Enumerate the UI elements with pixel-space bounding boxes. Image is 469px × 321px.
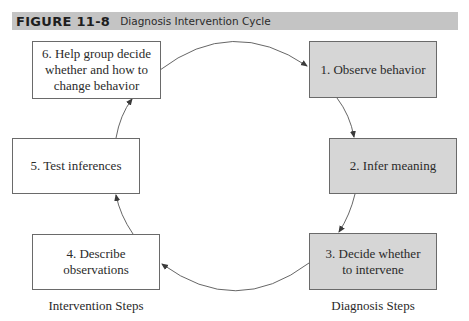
figure-number: FIGURE 11-8 [16, 14, 110, 29]
diagnosis-steps-caption: Diagnosis Steps [309, 298, 437, 314]
arrow-5-to-6 [116, 99, 132, 138]
arrow-6-to-1 [160, 41, 307, 70]
step-5-test-inferences: 5. Test inferences [12, 138, 140, 194]
arrow-4-to-5 [116, 195, 133, 234]
step-2-infer-meaning: 2. Infer meaning [329, 138, 457, 194]
step-1-observe-behavior: 1. Observe behavior [309, 41, 437, 98]
step-4-describe-observations: 4. Describe observations [32, 234, 160, 290]
step-1-label: 1. Observe behavior [320, 62, 425, 78]
step-6-help-group-decide: 6. Help group decide whether and how to … [32, 41, 161, 99]
arrow-1-to-2 [337, 98, 354, 137]
step-6-label: 6. Help group decide whether and how to … [42, 46, 151, 94]
step-3-decide-whether-to-intervene: 3. Decide whether to intervene [309, 233, 437, 290]
figure-header: FIGURE 11-8 Diagnosis Intervention Cycle [12, 12, 458, 30]
step-2-label: 2. Infer meaning [350, 158, 436, 174]
step-3-label: 3. Decide whether to intervene [326, 246, 421, 278]
arrow-2-to-3 [339, 194, 355, 232]
arrow-3-to-4 [162, 263, 309, 291]
intervention-steps-caption: Intervention Steps [32, 298, 160, 314]
figure-title: Diagnosis Intervention Cycle [120, 15, 271, 27]
step-4-label: 4. Describe observations [63, 246, 129, 278]
step-5-label: 5. Test inferences [31, 158, 122, 174]
